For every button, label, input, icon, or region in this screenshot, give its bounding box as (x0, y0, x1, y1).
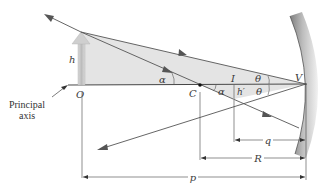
label-theta-lower: θ (256, 86, 262, 97)
label-C: C (189, 88, 197, 99)
label-theta-upper: θ (255, 73, 261, 84)
label-p: p (190, 172, 197, 183)
label-axis: axis (19, 110, 35, 121)
arrowhead-ray-to-mirror (262, 111, 272, 117)
label-principal: Principal (9, 99, 45, 110)
label-alpha-image: α (218, 86, 225, 97)
dimension-R: R (201, 152, 305, 164)
label-V: V (295, 72, 304, 83)
label-R: R (253, 153, 262, 164)
arrowhead-upper-left (44, 14, 54, 22)
label-h-prime: h′ (237, 87, 245, 97)
label-h: h (69, 54, 75, 65)
mirror-ray-diagram: q R p h O C I h′ V α α θ θ Principal axi… (0, 0, 325, 195)
ray-incident-upper (48, 16, 81, 32)
arrowhead-reflected (97, 144, 108, 150)
center-point (198, 83, 202, 87)
ray-reflected (100, 84, 306, 149)
label-alpha-object: α (159, 74, 166, 85)
label-q: q (265, 135, 271, 146)
dimension-p: p (83, 171, 305, 183)
label-O: O (76, 89, 84, 100)
dimension-q: q (235, 135, 305, 146)
